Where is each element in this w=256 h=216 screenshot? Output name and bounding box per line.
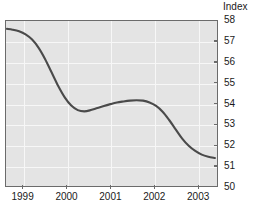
y-tick-label-53: 53 (224, 119, 235, 129)
y-tick-54 (214, 103, 218, 105)
y-tick-label-52: 52 (224, 140, 235, 150)
x-tick-2000 (66, 185, 68, 189)
y-tick-label-58: 58 (224, 15, 235, 25)
y-tick-53 (214, 124, 218, 126)
x-tick-label-2002: 2002 (134, 192, 174, 202)
y-tick-label-56: 56 (224, 57, 235, 67)
x-tick-label-1999: 1999 (3, 192, 43, 202)
x-tick-label-2000: 2000 (47, 192, 87, 202)
plot-area (5, 20, 218, 187)
y-tick-56 (214, 61, 218, 63)
y-tick-57 (214, 40, 218, 42)
y-tick-label-57: 57 (224, 36, 235, 46)
y-tick-52 (214, 145, 218, 147)
index-line-chart: Index 585756555453525150 199920002001200… (0, 0, 256, 216)
x-tick-2002 (154, 185, 156, 189)
y-axis-title: Index (223, 2, 247, 12)
x-tick-label-2001: 2001 (90, 192, 130, 202)
y-tick-51 (214, 165, 218, 167)
y-tick-label-51: 51 (224, 161, 235, 171)
x-tick-label-2003: 2003 (178, 192, 218, 202)
series-line-index (6, 21, 217, 186)
x-tick-2003 (198, 185, 200, 189)
y-tick-label-54: 54 (224, 99, 235, 109)
x-tick-2001 (110, 185, 112, 189)
y-tick-label-55: 55 (224, 78, 235, 88)
x-tick-1999 (22, 185, 24, 189)
y-tick-55 (214, 82, 218, 84)
y-tick-label-50: 50 (224, 182, 235, 192)
